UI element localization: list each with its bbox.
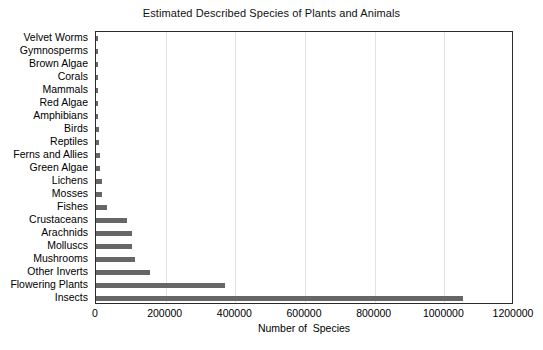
- category-label: Corals: [58, 71, 88, 82]
- category-label: Fishes: [57, 201, 88, 212]
- x-tick-label: 1200000: [493, 307, 534, 319]
- bar: [96, 88, 98, 93]
- bar: [96, 257, 135, 262]
- category-label: Red Algae: [40, 97, 88, 108]
- bar: [96, 296, 463, 301]
- bar: [96, 218, 127, 223]
- plot-area: [95, 31, 513, 304]
- category-label: Flowering Plants: [10, 279, 88, 290]
- bar: [96, 205, 107, 210]
- category-label: Molluscs: [47, 240, 88, 251]
- species-bar-chart: Estimated Described Species of Plants an…: [0, 0, 543, 350]
- x-tick-label: 200000: [147, 307, 182, 319]
- category-label: Other Inverts: [27, 266, 88, 277]
- bar: [96, 127, 99, 132]
- x-tick-label: 800000: [356, 307, 391, 319]
- bar: [96, 179, 102, 184]
- x-axis-title: Number of Species: [95, 322, 513, 334]
- category-label: Green Algae: [30, 162, 88, 173]
- category-label: Insects: [55, 292, 88, 303]
- bar: [96, 283, 225, 288]
- bar: [96, 192, 102, 197]
- bar: [96, 62, 98, 67]
- category-label: Crustaceans: [29, 214, 88, 225]
- bar: [96, 101, 98, 106]
- x-tick-label: 1000000: [423, 307, 464, 319]
- category-label: Ferns and Allies: [13, 149, 88, 160]
- category-label: Velvet Worms: [23, 32, 88, 43]
- bar: [96, 231, 132, 236]
- bar: [96, 114, 98, 119]
- category-label: Lichens: [52, 175, 88, 186]
- x-tick-label: 400000: [217, 307, 252, 319]
- bar-series: [96, 32, 512, 303]
- x-tick-label: 600000: [286, 307, 321, 319]
- bar: [96, 244, 132, 249]
- bar: [96, 270, 150, 275]
- category-axis-labels: Velvet WormsGymnospermsBrown AlgaeCorals…: [0, 31, 92, 304]
- x-axis-tick-labels: 020000040000060000080000010000001200000: [0, 307, 543, 323]
- bar: [96, 49, 98, 54]
- category-label: Arachnids: [41, 227, 88, 238]
- category-label: Mosses: [52, 188, 88, 199]
- x-tick-label: 0: [92, 307, 98, 319]
- bar: [96, 166, 100, 171]
- chart-title: Estimated Described Species of Plants an…: [0, 7, 543, 19]
- category-label: Amphibians: [33, 110, 88, 121]
- bar: [96, 153, 100, 158]
- bar: [96, 36, 98, 41]
- category-label: Mushrooms: [33, 253, 88, 264]
- bar: [96, 140, 99, 145]
- category-label: Reptiles: [50, 136, 88, 147]
- category-label: Brown Algae: [29, 58, 88, 69]
- bar: [96, 75, 98, 80]
- category-label: Mammals: [42, 84, 88, 95]
- category-label: Gymnosperms: [20, 45, 88, 56]
- category-label: Birds: [64, 123, 88, 134]
